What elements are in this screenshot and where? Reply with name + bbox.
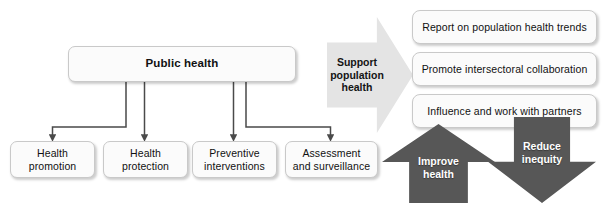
box-public-health-label: Public health [142,57,223,71]
box-report-population-health-trends-label: Report on population health trends [418,21,591,33]
box-report-population-health-trends: Report on population health trends [412,10,597,44]
box-influence-and-work-with-partners-label: Influence and work with partners [423,105,585,117]
box-assessment-and-surveillance-label: Assessment and surveillance [289,147,374,172]
arrow-support-population-health: Support population health [327,17,413,133]
box-health-promotion: Health promotion [10,141,95,178]
public-health-diagram: Public health Health promotion Health pr… [0,0,603,203]
box-health-promotion-label: Health promotion [25,147,81,172]
arrow-improve-health-label: Improve health [418,155,459,180]
box-promote-intersectoral-collaboration: Promote intersectoral collaboration [412,52,597,86]
arrow-reduce-inequity-label: Reduce inequity [522,140,562,165]
arrow-reduce-inequity: Reduce inequity [488,117,596,203]
box-public-health: Public health [68,46,296,82]
box-assessment-and-surveillance: Assessment and surveillance [285,141,378,178]
connector-health-promotion [53,82,127,138]
box-preventive-interventions-label: Preventive interventions [200,147,269,172]
connector-assessment-surveillance [246,82,331,138]
box-promote-intersectoral-collaboration-label: Promote intersectoral collaboration [418,63,592,75]
arrow-improve-health: Improve health [382,124,495,203]
box-health-protection-label: Health protection [118,147,173,172]
arrow-support-population-health-label: Support population health [330,56,384,94]
box-health-protection: Health protection [103,141,188,178]
box-preventive-interventions: Preventive interventions [192,141,277,178]
